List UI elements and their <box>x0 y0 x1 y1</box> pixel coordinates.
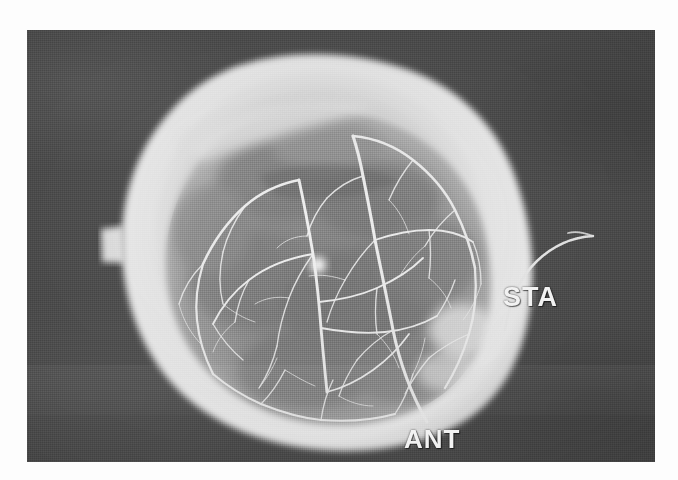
scanned-page: STA ANT <box>0 0 678 480</box>
skull-radiograph <box>27 30 655 462</box>
focal-bright-spot <box>307 254 329 276</box>
annotation-label-sta: STA <box>503 282 558 313</box>
angiogram-photo-frame: STA ANT <box>27 30 655 462</box>
annotation-label-ant: ANT <box>404 424 460 455</box>
skull-vector-layer <box>27 30 655 462</box>
